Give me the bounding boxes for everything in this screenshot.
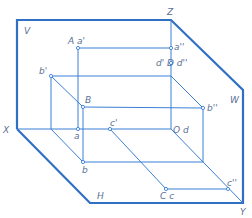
label-a: a — [74, 131, 80, 141]
label-c1: c' — [110, 118, 117, 128]
axis-oy — [171, 129, 243, 203]
label-d1-D-d2: d' D d'' — [156, 58, 188, 68]
label-X: X — [2, 125, 10, 135]
point-b1 — [49, 74, 52, 77]
point-a1 — [76, 46, 79, 49]
label-H: H — [97, 191, 104, 201]
label-Y: Y — [240, 207, 247, 217]
line-B-b2 — [83, 107, 203, 108]
label-b1: b' — [39, 66, 47, 76]
label-O-d: O d — [173, 125, 189, 135]
label-C-c: C c — [160, 191, 174, 201]
point-B — [81, 105, 84, 108]
line-z-b2 — [171, 76, 203, 108]
line-c1-c — [110, 129, 166, 189]
label-a2: a'' — [174, 42, 184, 52]
label-A-a1: A a' — [67, 36, 85, 46]
label-B: B — [85, 95, 91, 105]
point-b2 — [201, 106, 204, 109]
label-Z: Z — [166, 7, 174, 17]
projection-diagram: V Z W X H Y A a' a'' d' D d'' b' B b'' a… — [0, 0, 252, 218]
label-V: V — [24, 26, 31, 36]
point-a2 — [169, 46, 172, 49]
label-W: W — [230, 95, 240, 105]
label-b: b — [82, 165, 88, 175]
point-b — [81, 160, 84, 163]
label-b2: b'' — [207, 103, 218, 113]
label-c2: c'' — [227, 178, 237, 188]
